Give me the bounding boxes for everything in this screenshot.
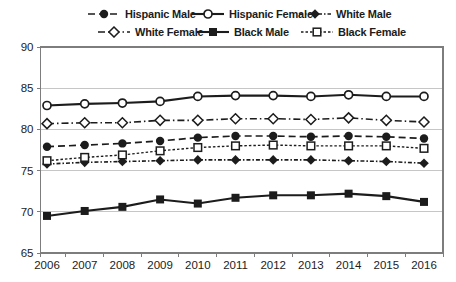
- marker-open-diamond: [381, 115, 391, 125]
- marker-filled-square: [156, 195, 164, 203]
- y-tick-label-80: 80: [21, 123, 34, 135]
- marker-open-square: [81, 154, 89, 162]
- y-tick-label-70: 70: [21, 206, 34, 218]
- marker-open-square: [232, 142, 240, 150]
- marker-filled-circle: [420, 134, 428, 142]
- marker-open-diamond: [268, 114, 278, 124]
- marker-filled-circle: [43, 143, 51, 151]
- y-tick-label-90: 90: [21, 41, 34, 53]
- marker-filled-diamond: [268, 155, 278, 165]
- marker-open-diamond: [419, 117, 429, 127]
- marker-open-square: [269, 141, 277, 149]
- marker-filled-square: [43, 212, 51, 220]
- marker-filled-square: [420, 198, 428, 206]
- marker-open-square: [345, 142, 353, 150]
- marker-filled-circle: [156, 137, 164, 145]
- marker-filled-circle: [231, 132, 239, 140]
- x-tick-label-2011: 2011: [223, 259, 248, 271]
- x-tick-label-2014: 2014: [336, 259, 362, 271]
- marker-filled-circle: [269, 132, 277, 140]
- y-tick-label-65: 65: [21, 247, 34, 259]
- marker-filled-diamond: [193, 155, 203, 165]
- marker-open-diamond: [80, 118, 90, 128]
- marker-filled-diamond: [155, 156, 165, 166]
- y-tick-label-75: 75: [21, 165, 34, 177]
- marker-open-circle: [156, 97, 164, 105]
- marker-filled-square: [307, 191, 315, 199]
- marker-open-circle: [307, 92, 315, 100]
- marker-filled-circle: [344, 132, 352, 140]
- y-tick-label-85: 85: [21, 82, 34, 94]
- marker-open-diamond: [306, 115, 316, 125]
- x-tick-label-2006: 2006: [34, 259, 60, 271]
- life-expectancy-line-chart: Hispanic MaleHispanic FemaleWhite MaleWh…: [0, 0, 456, 282]
- x-tick-label-2008: 2008: [110, 259, 136, 271]
- marker-open-diamond: [193, 115, 203, 125]
- marker-filled-diamond: [306, 155, 316, 165]
- x-tick-label-2010: 2010: [185, 259, 211, 271]
- marker-open-circle: [81, 100, 89, 108]
- marker-open-diamond: [344, 113, 354, 123]
- marker-open-square: [420, 145, 428, 153]
- marker-open-diamond: [117, 118, 127, 128]
- marker-filled-square: [194, 200, 202, 208]
- marker-filled-circle: [307, 133, 315, 141]
- x-tick-label-2009: 2009: [147, 259, 173, 271]
- marker-open-diamond: [155, 115, 165, 125]
- marker-filled-circle: [118, 139, 126, 147]
- marker-open-circle: [43, 102, 51, 110]
- marker-open-diamond: [231, 114, 241, 124]
- x-tick-label-2016: 2016: [411, 259, 437, 271]
- marker-open-square: [194, 144, 202, 152]
- series-black-male: [43, 190, 428, 220]
- series-white-female: [42, 113, 429, 129]
- marker-open-square: [43, 157, 51, 165]
- marker-open-square: [119, 151, 127, 159]
- marker-open-circle: [232, 92, 240, 100]
- series-white-male: [42, 155, 429, 169]
- marker-open-circle: [118, 99, 126, 107]
- marker-filled-diamond: [344, 156, 354, 166]
- marker-filled-diamond: [419, 158, 429, 168]
- marker-filled-square: [382, 192, 390, 200]
- marker-filled-diamond: [382, 157, 392, 167]
- marker-open-circle: [345, 91, 353, 99]
- marker-open-square: [156, 147, 164, 155]
- marker-open-circle: [420, 92, 428, 100]
- marker-filled-circle: [81, 141, 89, 149]
- plot-area: 6570758085902006200720082009201020112012…: [0, 0, 456, 282]
- x-tick-label-2015: 2015: [374, 259, 400, 271]
- x-tick-label-2012: 2012: [260, 259, 286, 271]
- marker-filled-square: [269, 191, 277, 199]
- marker-filled-square: [232, 194, 240, 202]
- marker-filled-square: [118, 203, 126, 211]
- marker-open-square: [307, 142, 315, 150]
- marker-filled-diamond: [231, 155, 241, 165]
- x-tick-label-2013: 2013: [298, 259, 324, 271]
- marker-open-circle: [194, 92, 202, 100]
- marker-open-diamond: [42, 119, 52, 129]
- marker-filled-circle: [382, 133, 390, 141]
- marker-open-circle: [269, 92, 277, 100]
- series-hispanic-female: [43, 91, 428, 110]
- marker-filled-square: [345, 190, 353, 198]
- marker-filled-circle: [194, 133, 202, 141]
- marker-open-square: [383, 142, 391, 150]
- marker-filled-square: [81, 207, 89, 215]
- marker-open-circle: [382, 92, 390, 100]
- x-tick-label-2007: 2007: [72, 259, 98, 271]
